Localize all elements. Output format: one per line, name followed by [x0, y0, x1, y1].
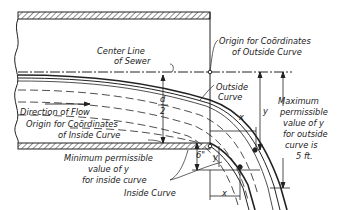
arrow-icon	[281, 182, 285, 188]
arrow-icon	[258, 72, 262, 78]
label-six-inch: 6"	[196, 150, 205, 160]
arrow-icon	[161, 137, 165, 143]
label-min-perm-3: for inside curve	[82, 175, 147, 185]
arrow-icon	[195, 164, 199, 170]
label-inside-curve: Inside Curve	[124, 188, 176, 198]
arrow-icon	[84, 102, 90, 106]
label-direction-flow: Direction of Flow	[20, 107, 90, 117]
label-max-perm-2: permissible	[279, 107, 328, 117]
break-line	[15, 19, 19, 143]
label-x-outer: x	[238, 112, 244, 122]
arrow-icon	[281, 72, 285, 78]
label-outside-curve-1: Outside	[216, 82, 248, 92]
label-origin-inside-1: Origin for Coördinates	[26, 119, 118, 129]
arrow-icon	[258, 144, 262, 150]
label-center-line-1: Center Line	[97, 46, 145, 56]
label-max-perm-1: Maximum	[278, 96, 319, 106]
origin-outside-marker	[208, 70, 212, 74]
top-pipe-wall	[18, 12, 210, 19]
label-min-perm-2: value of y	[88, 164, 129, 174]
label-max-perm-6: 5 ft.	[296, 151, 313, 161]
label-y-inner: y	[212, 152, 218, 162]
label-y-outer: y	[262, 106, 268, 116]
label-center-line-2: of Sewer	[114, 56, 151, 66]
label-outside-curve-2: Curve	[218, 92, 242, 102]
outside-curve-point	[253, 148, 257, 152]
origin-inside-marker	[208, 144, 212, 148]
label-origin-outside-1: Origin for Coördinates	[219, 36, 311, 46]
label-d: d	[160, 94, 166, 104]
sewer-curve-diagram: Center Line of Sewer Origin for Coördina…	[0, 0, 353, 210]
label-max-perm-3: value of y	[283, 118, 324, 128]
label-x-inner: x	[221, 188, 227, 198]
leader-outside-curve	[200, 85, 214, 100]
label-max-perm-4: for outside	[283, 129, 328, 139]
leader-origin-outside	[210, 40, 218, 70]
label-min-perm-1: Minimum permissible	[64, 153, 153, 163]
label-max-perm-5: curve is	[285, 140, 318, 150]
label-d-den: 2	[160, 106, 165, 116]
arrow-icon	[161, 75, 165, 81]
leader-center-line	[170, 64, 173, 72]
label-origin-outside-2: of Outside Curve	[232, 47, 302, 57]
label-origin-inside-2: of Inside Curve	[58, 130, 120, 140]
bottom-pipe-wall	[18, 143, 210, 149]
leader-min-perm	[170, 150, 188, 180]
